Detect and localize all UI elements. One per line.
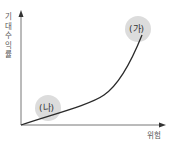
x-axis-label: 위험 <box>147 129 161 140</box>
y-axis-arrow-icon <box>19 10 24 17</box>
y-axis-label: 기대수익률 <box>4 12 13 60</box>
diagram-canvas <box>0 0 172 143</box>
point-label-ga: (가) <box>129 22 144 35</box>
point-label-na: (나) <box>39 101 54 114</box>
risk-return-diagram: 기대수익률 위험 (가) (나) <box>0 0 172 143</box>
x-axis-arrow-icon <box>159 123 166 128</box>
